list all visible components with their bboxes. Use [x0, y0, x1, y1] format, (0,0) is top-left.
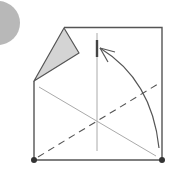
fold-arrow	[100, 48, 159, 148]
folded-flap	[34, 28, 79, 81]
corner-dot-right	[159, 157, 165, 163]
origami-diagram	[0, 0, 171, 173]
corner-dot-left	[31, 157, 37, 163]
step-marker-circle	[0, 1, 20, 45]
